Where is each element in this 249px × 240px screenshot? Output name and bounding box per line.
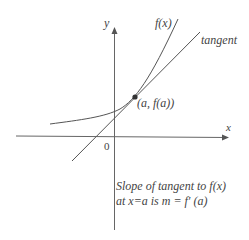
x-axis — [16, 136, 228, 138]
origin-label: 0 — [104, 140, 110, 152]
caption-line-2: at x=a is m = f′ (a) — [116, 194, 207, 208]
x-axis-label: x — [225, 121, 231, 133]
curve-label: f(x) — [155, 16, 172, 30]
tangent-diagram: y x 0 f(x) tangent (a, f(a)) Slope of ta… — [0, 0, 249, 240]
caption-line-1: Slope of tangent to f(x) — [116, 179, 226, 193]
point-label: (a, f(a)) — [137, 96, 174, 110]
tangent-label: tangent — [201, 33, 238, 47]
y-axis-label: y — [103, 16, 110, 30]
